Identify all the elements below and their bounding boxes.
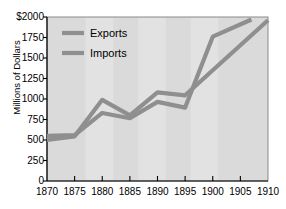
x-tick-label: 1890 — [146, 187, 168, 197]
line-chart: 02505007501000125015001750$2000 Millions… — [0, 0, 286, 209]
x-tick-label: 1900 — [202, 187, 224, 197]
x-tick-label: 1885 — [119, 187, 141, 197]
legend-label-exports: Exports — [90, 27, 128, 39]
x-tick-label: 1910 — [257, 187, 279, 197]
x-tick-label: 1895 — [174, 187, 196, 197]
plot-band-0 — [47, 17, 86, 181]
legend-label-imports: Imports — [90, 47, 127, 59]
x-tick-label: 1880 — [91, 187, 113, 197]
y-axis-title: Millions of Dollars — [11, 8, 22, 148]
y-axis-tick-labels: 02505007501000125015001750$2000 — [0, 0, 44, 209]
y-tick-label: 500 — [27, 135, 44, 145]
y-tick-label: 1500 — [22, 53, 44, 63]
y-tick-label: 250 — [27, 156, 44, 166]
x-tick-label: 1870 — [36, 187, 58, 197]
y-tick-label: 0 — [38, 176, 44, 186]
x-tick-label: 1875 — [64, 187, 86, 197]
y-tick-label: 1750 — [22, 33, 44, 43]
y-tick-label: 1000 — [22, 94, 44, 104]
plot-band-1 — [113, 17, 138, 181]
y-tick-label: 1250 — [22, 74, 44, 84]
y-tick-label: 750 — [27, 115, 44, 125]
x-tick-label: 1905 — [229, 187, 251, 197]
